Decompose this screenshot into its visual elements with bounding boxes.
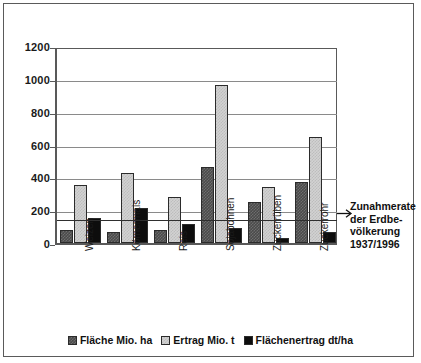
chart-legend: Fläche Mio. haErtrag Mio. tFlächenertrag… — [0, 334, 421, 346]
bar-zuckerrüben-series1 — [248, 202, 261, 243]
legend-item-3: Flächenertrag dt/ha — [244, 334, 353, 346]
bar-group-reis — [151, 48, 198, 243]
category-label-sojabohnen: Sojabohnen — [225, 198, 236, 251]
bar-group-weizen — [57, 48, 104, 243]
category-label-reis: Reis — [178, 231, 189, 251]
y-tick-1000: 1000 — [8, 74, 50, 86]
y-tick-mark-0 — [50, 245, 55, 246]
y-tick-200: 200 — [8, 205, 50, 217]
y-tick-0: 0 — [8, 238, 50, 250]
bar-group-zuckerrüben — [245, 48, 292, 243]
legend-swatch-checker-light — [161, 336, 170, 345]
y-tick-600: 600 — [8, 140, 50, 152]
y-tick-1200: 1200 — [8, 41, 50, 53]
category-label-weizen: Weizen — [84, 218, 95, 251]
legend-label-2: Ertrag Mio. t — [173, 334, 234, 346]
y-tick-400: 400 — [8, 172, 50, 184]
legend-swatch-checker-dark — [68, 336, 77, 345]
legend-swatch-solid-black — [244, 336, 253, 345]
bar-sojabohnen-series1 — [201, 167, 214, 243]
y-tick-800: 800 — [8, 107, 50, 119]
annotation-line-4: 1937/1996 — [350, 238, 420, 251]
chart-figure: 120010008006004002000 WeizenKörnermaisRe… — [0, 0, 421, 363]
bar-körnermais-series1 — [107, 232, 120, 243]
population-growth-reference-line — [57, 220, 337, 221]
annotation-line-2: der Erdbe- — [350, 213, 420, 226]
legend-item-2: Ertrag Mio. t — [161, 334, 234, 346]
bar-zuckerrohr-series1 — [295, 182, 308, 243]
category-label-zuckerrüben: Zuckerrüben — [272, 195, 283, 251]
bar-reis-series1 — [154, 230, 167, 243]
legend-label-3: Flächenertrag dt/ha — [256, 334, 353, 346]
annotation-line-3: völkerung — [350, 225, 420, 238]
legend-label-1: Fläche Mio. ha — [80, 334, 152, 346]
plot-area — [55, 48, 337, 245]
category-label-körnermais: Körnermais — [131, 200, 142, 251]
population-growth-annotation: Zunahmerate der Erdbe- völkerung 1937/19… — [350, 200, 420, 250]
bar-group-zuckerrohr — [292, 48, 339, 243]
bar-group-sojabohnen — [198, 48, 245, 243]
legend-item-1: Fläche Mio. ha — [68, 334, 152, 346]
bar-weizen-series1 — [60, 230, 73, 243]
category-label-zuckerrohr: Zuckerrohr — [319, 203, 330, 251]
annotation-line-1: Zunahmerate — [350, 200, 420, 213]
bar-group-körnermais — [104, 48, 151, 243]
